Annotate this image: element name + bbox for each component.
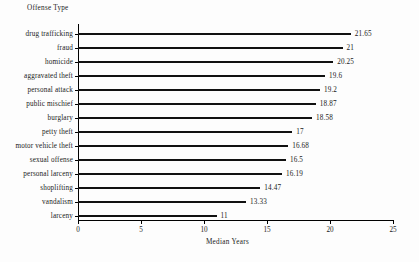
x-axis-tick <box>141 220 142 224</box>
category-label: burglary <box>48 114 73 122</box>
chart-row: larceny11 <box>78 209 393 223</box>
chart-row: personal attack19.2 <box>78 83 393 97</box>
bar <box>78 75 325 77</box>
x-axis-tick-label: 10 <box>200 226 207 234</box>
bar-value-label: 20.25 <box>337 58 354 66</box>
bar-value-label: 18.58 <box>316 114 333 122</box>
bar-value-label: 14.47 <box>264 184 281 192</box>
bar <box>78 103 316 105</box>
x-axis-tick <box>393 220 394 224</box>
bar <box>78 201 246 203</box>
category-label: drug trafficking <box>25 30 73 38</box>
category-label: vandalism <box>42 198 73 206</box>
x-axis-title: Median Years <box>0 238 419 246</box>
bar <box>78 145 288 147</box>
chart-row: petty theft17 <box>78 125 393 139</box>
chart-row: personal larceny16.19 <box>78 167 393 181</box>
x-axis-tick <box>78 220 79 224</box>
bar <box>78 215 217 217</box>
category-label: larceny <box>51 212 73 220</box>
x-axis-tick <box>330 220 331 224</box>
chart-row: vandalism13.33 <box>78 195 393 209</box>
y-axis-title: Offense Type <box>27 4 69 12</box>
category-label: motor vehicle theft <box>15 142 73 150</box>
bar-value-label: 19.2 <box>324 86 337 94</box>
bar <box>78 159 286 161</box>
x-axis-tick <box>267 220 268 224</box>
bar-value-label: 17 <box>296 128 304 136</box>
bar <box>78 61 333 63</box>
category-label: personal attack <box>27 86 73 94</box>
chart-row: homicide20.25 <box>78 55 393 69</box>
category-label: homicide <box>45 58 73 66</box>
category-label: public mischief <box>26 100 73 108</box>
chart-row: drug trafficking21.65 <box>78 27 393 41</box>
chart-row: public mischief18.87 <box>78 97 393 111</box>
chart-row: burglary18.58 <box>78 111 393 125</box>
bar <box>78 173 282 175</box>
x-axis-tick-label: 5 <box>139 226 143 234</box>
bar-chart: Offense Type drug trafficking21.65fraud2… <box>0 0 419 262</box>
bar-value-label: 11 <box>221 212 228 220</box>
bar-value-label: 21 <box>347 44 355 52</box>
bar <box>78 131 292 133</box>
chart-row: fraud21 <box>78 41 393 55</box>
x-axis-tick <box>204 220 205 224</box>
bar-value-label: 18.87 <box>320 100 337 108</box>
chart-row: shoplifting14.47 <box>78 181 393 195</box>
chart-row: sexual offense16.5 <box>78 153 393 167</box>
bar-value-label: 13.33 <box>250 198 267 206</box>
chart-row: aggravated theft19.6 <box>78 69 393 83</box>
bar-value-label: 16.68 <box>292 142 309 150</box>
plot-area: drug trafficking21.65fraud21homicide20.2… <box>78 24 393 220</box>
bar <box>78 89 320 91</box>
x-axis-title-text: Median Years <box>206 238 249 246</box>
category-label: aggravated theft <box>24 72 73 80</box>
bar <box>78 187 260 189</box>
bar <box>78 47 343 49</box>
bar-value-label: 16.5 <box>290 156 303 164</box>
x-axis-tick-label: 20 <box>326 226 333 234</box>
x-axis-tick-label: 15 <box>263 226 270 234</box>
bar-value-label: 19.6 <box>329 72 342 80</box>
category-label: sexual offense <box>30 156 73 164</box>
category-label: shoplifting <box>40 184 73 192</box>
category-label: personal larceny <box>23 170 73 178</box>
x-axis-tick-label: 25 <box>389 226 396 234</box>
bar <box>78 117 312 119</box>
category-label: fraud <box>57 44 73 52</box>
bar <box>78 33 351 35</box>
chart-row: motor vehicle theft16.68 <box>78 139 393 153</box>
bar-value-label: 16.19 <box>286 170 303 178</box>
x-axis-tick-label: 0 <box>76 226 80 234</box>
category-label: petty theft <box>42 128 73 136</box>
bar-value-label: 21.65 <box>355 30 372 38</box>
